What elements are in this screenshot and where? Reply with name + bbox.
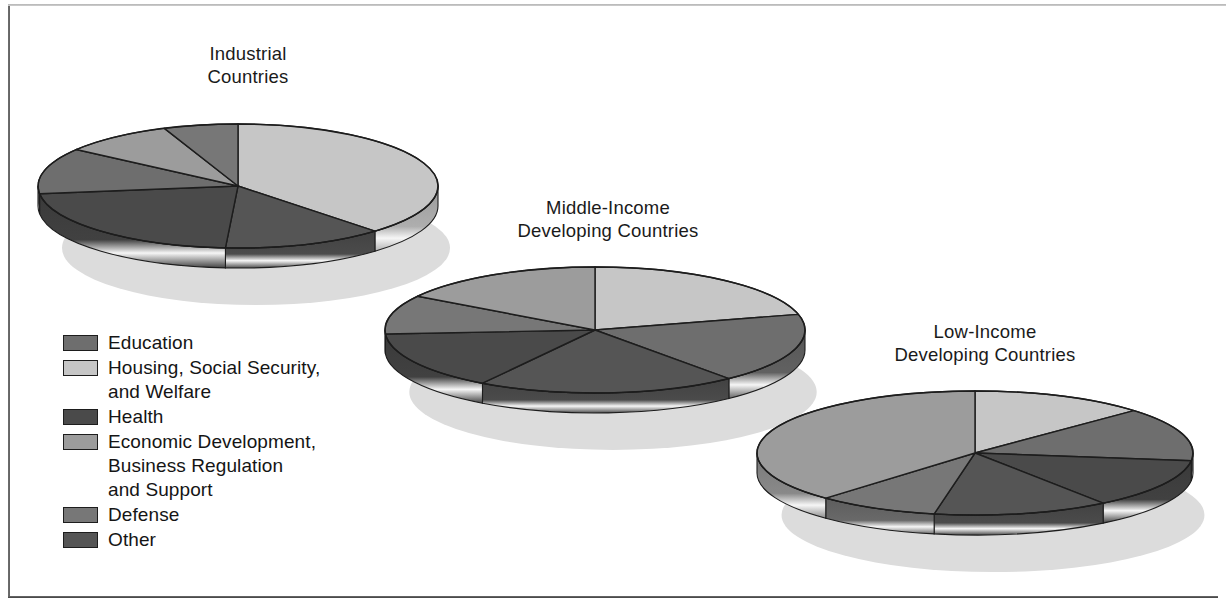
pie-slice-side: [1103, 461, 1191, 523]
pie-slice-side: [729, 330, 805, 399]
pie-side-wall: [757, 453, 1193, 535]
pie-slice: [595, 314, 805, 378]
frame-left-rule: [8, 4, 10, 598]
legend-swatch-icon: [63, 409, 98, 425]
pie-slice: [385, 330, 595, 383]
legend-item-label: Education: [108, 331, 193, 355]
pie-slice: [826, 453, 975, 514]
pie-drop-shadow: [782, 458, 1205, 572]
pie-slice-side: [40, 194, 226, 268]
pie-slice-side: [375, 186, 438, 251]
legend-item: Education: [63, 331, 333, 355]
pie-slice: [76, 128, 238, 186]
middle-income-developing-countries-pie-title: Middle-Income Developing Countries: [438, 196, 778, 242]
pie-slice: [38, 150, 238, 194]
pie-slice-side: [38, 186, 40, 214]
low-income-developing-countries-pie-title: Low-Income Developing Countries: [815, 320, 1155, 366]
pie-side-wall: [385, 330, 805, 413]
pie-top-outline: [757, 391, 1193, 515]
legend-swatch-icon: [63, 335, 98, 351]
pie-slice: [164, 124, 238, 186]
pie-slice-side: [826, 498, 934, 534]
pie-slice: [595, 267, 798, 330]
industrial-countries-pie-title: Industrial Countries: [78, 42, 418, 88]
pie-slice: [975, 411, 1193, 461]
pie-slice: [757, 391, 975, 498]
pie-rim-highlight: [38, 186, 438, 268]
pie-slice: [40, 186, 238, 248]
legend: EducationHousing, Social Security, and W…: [63, 331, 333, 553]
pie-drop-shadow: [62, 191, 450, 305]
pie-slice: [482, 330, 728, 393]
pie-slice-side: [385, 334, 482, 403]
pie-slice-side: [482, 379, 728, 413]
legend-item: Health: [63, 405, 333, 429]
legend-item-label: Defense: [108, 503, 179, 527]
figure-canvas: Industrial CountriesMiddle-Income Develo…: [0, 0, 1231, 607]
legend-item-label: Economic Development, Business Regulatio…: [108, 430, 316, 502]
legend-item: Economic Development, Business Regulatio…: [63, 430, 333, 502]
legend-item-label: Health: [108, 405, 164, 429]
frame-bottom-rule: [8, 596, 1218, 598]
legend-item-label: Housing, Social Security, and Welfare: [108, 356, 320, 404]
pie-top-face: [38, 124, 438, 248]
pie-slice-side: [225, 231, 374, 268]
legend-swatch-icon: [63, 360, 98, 376]
frame-top-rule: [8, 4, 1226, 6]
pie-slice: [975, 391, 1134, 453]
pie-slice-side: [1191, 453, 1193, 481]
legend-swatch-icon: [63, 507, 98, 523]
pie-slice: [238, 124, 438, 231]
pie-slice: [975, 453, 1191, 503]
pie-slice: [934, 453, 1103, 515]
legend-item: Housing, Social Security, and Welfare: [63, 356, 333, 404]
pie-slice: [418, 267, 595, 330]
pie-rim-highlight: [757, 453, 1193, 535]
pie-top-outline: [38, 124, 438, 248]
pie-side-wall: [38, 186, 438, 268]
legend-item: Defense: [63, 503, 333, 527]
pie-top-face: [385, 267, 805, 393]
pie-drop-shadow: [409, 334, 816, 450]
legend-swatch-icon: [63, 532, 98, 548]
legend-item-label: Other: [108, 528, 156, 552]
pie-rim-highlight: [385, 330, 805, 413]
pie-slice: [385, 296, 595, 334]
legend-swatch-icon: [63, 434, 98, 450]
legend-item: Other: [63, 528, 333, 552]
pie-top-face: [757, 391, 1193, 515]
pie-slice-side: [934, 503, 1103, 535]
pie-slice: [225, 186, 374, 248]
pie-slice-side: [757, 453, 826, 518]
pie-top-outline: [385, 267, 805, 393]
